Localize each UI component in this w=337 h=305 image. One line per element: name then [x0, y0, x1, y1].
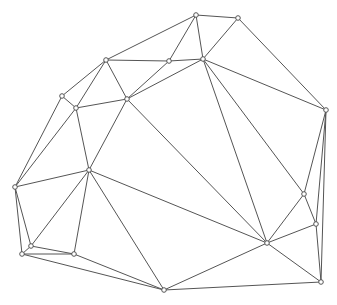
edge-F-K: [15, 96, 62, 187]
node-G: [74, 106, 79, 111]
node-F: [60, 94, 65, 99]
edge-S-R: [164, 282, 321, 290]
edge-C-F: [62, 60, 106, 96]
node-D: [167, 59, 172, 64]
node-A: [194, 13, 199, 18]
edge-C-D: [106, 60, 169, 61]
edge-O-Q: [31, 246, 74, 254]
edge-K-P: [15, 187, 22, 254]
edge-L-M: [304, 194, 316, 224]
edge-B-E: [203, 18, 238, 59]
edge-C-H: [106, 60, 127, 99]
edge-H-G: [76, 99, 127, 108]
edge-H-N: [127, 99, 267, 243]
edge-G-J: [76, 108, 89, 170]
edge-layer: [15, 15, 326, 290]
node-Q: [72, 252, 77, 257]
edge-E-L: [203, 59, 304, 194]
node-K: [13, 185, 18, 190]
edge-P-S: [22, 254, 164, 290]
edge-Q-S: [74, 254, 164, 290]
edge-M-R: [316, 224, 321, 282]
node-J: [87, 168, 92, 173]
node-S: [162, 288, 167, 293]
edge-N-R: [267, 243, 321, 282]
node-R: [319, 280, 324, 285]
node-layer: [13, 13, 329, 293]
node-L: [302, 192, 307, 197]
edge-D-E: [169, 59, 203, 61]
node-E: [201, 57, 206, 62]
node-M: [314, 222, 319, 227]
edge-C-G: [76, 60, 106, 108]
edge-E-N: [203, 59, 267, 243]
mesh-svg: [0, 0, 337, 305]
node-C: [104, 58, 109, 63]
edge-J-S: [89, 170, 164, 290]
node-O: [29, 244, 34, 249]
node-P: [20, 252, 25, 257]
edge-J-N: [89, 170, 267, 243]
edge-B-I: [238, 18, 326, 110]
edge-E-I: [203, 59, 326, 110]
edge-K-O: [15, 187, 31, 246]
node-I: [324, 108, 329, 113]
node-H: [125, 97, 130, 102]
node-N: [265, 241, 270, 246]
edge-N-S: [164, 243, 267, 290]
edge-H-J: [89, 99, 127, 170]
edge-J-Q: [74, 170, 89, 254]
mesh-diagram: [0, 0, 337, 305]
edge-A-E: [196, 15, 203, 59]
node-B: [236, 16, 241, 21]
edge-A-B: [196, 15, 238, 18]
